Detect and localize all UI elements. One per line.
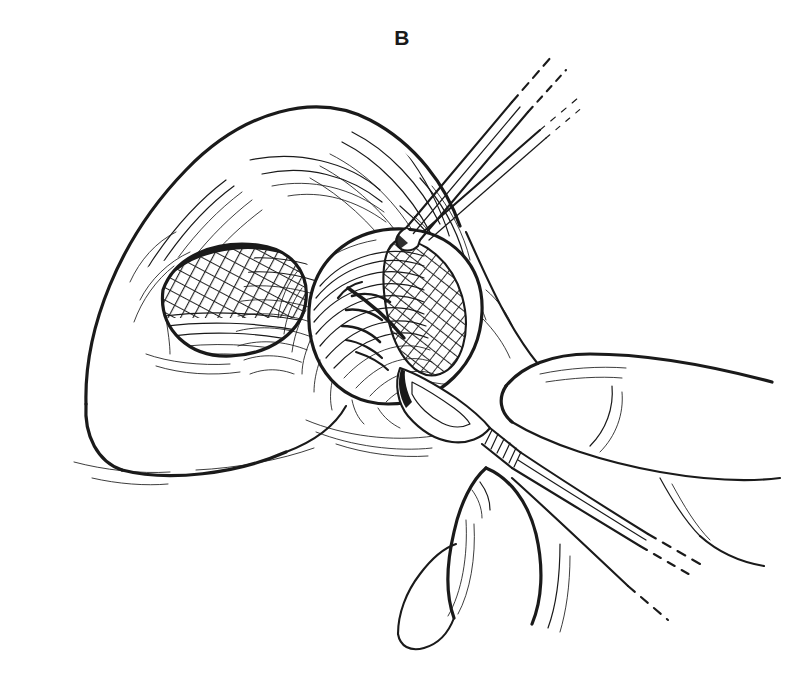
thumb bbox=[398, 468, 570, 649]
nasal-base-shading bbox=[306, 420, 434, 457]
illustration-canvas bbox=[0, 0, 804, 675]
figure-root: B bbox=[0, 0, 804, 675]
scalpel[interactable] bbox=[397, 368, 700, 620]
double-prong-retractor[interactable] bbox=[395, 56, 584, 251]
index-finger bbox=[501, 354, 780, 480]
